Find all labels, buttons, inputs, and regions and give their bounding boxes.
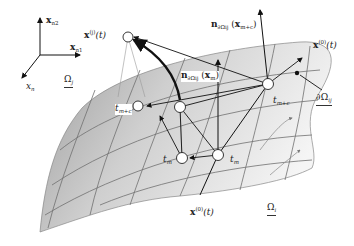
label-omega-j: Ωj [64, 75, 73, 88]
label-t-mc-right: tm+c [273, 96, 290, 107]
label-normal-mid: n∂Ωij (xm) [181, 71, 219, 82]
label-t-m-left: tm [163, 155, 172, 166]
label-x0-t-right: x(0)(t) [313, 40, 337, 50]
label-xj-t: x(j)(t) [84, 30, 106, 40]
diagram-canvas: xn2 xn1 xn Ωj Ωi ∂Ωij x(j)(t) x(0)(t) x(… [0, 0, 354, 246]
surface-illustration [0, 0, 354, 246]
axis-label-xn2: xn2 [46, 16, 58, 27]
boundary-point [295, 71, 299, 75]
label-normal-top: n∂Ωij (xm+c) [211, 20, 257, 31]
axis-label-xn1: xn1 [70, 43, 82, 54]
label-omega-i: Ωi [267, 203, 276, 216]
axis-label-xn: xn [26, 82, 35, 93]
label-t-m-right: tm [230, 155, 239, 166]
label-boundary: ∂Ωij [316, 93, 332, 106]
label-t-mc-left: tm+c [115, 104, 132, 115]
label-x0-t-bottom: x(0)(t) [190, 207, 214, 217]
